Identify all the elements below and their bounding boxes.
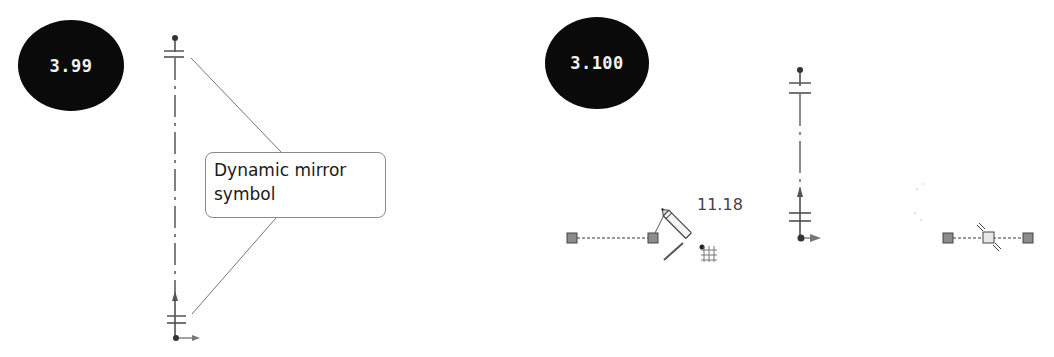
mirror-symbol-top-icon [164,51,184,57]
mirror-axis-left [164,35,200,341]
sketch-line-left [567,213,665,243]
mirror-axis-right [789,67,821,242]
ghost-artifacts [914,183,924,221]
endpoint-icon [943,233,953,243]
axis-origin-point-icon [798,235,805,242]
midpoint-icon [983,232,994,243]
direction-arrow-icon [797,186,803,197]
axis-origin-point-icon [173,335,179,341]
endpoint-icon [648,233,658,243]
sketch-line-right [943,223,1033,251]
diagram-canvas [0,0,1054,357]
callout-dynamic-mirror-symbol: Dynamic mirror symbol [205,152,386,218]
figure-number-badge-right: 3.100 [545,17,649,109]
axis-start-point-icon [797,67,803,73]
callout-line-2: symbol [214,182,377,206]
origin-arrow-icon [804,234,821,242]
endpoint-icon [1023,233,1033,243]
callout-line-1: Dynamic mirror [214,158,377,182]
dimension-value: 11.18 [697,195,743,214]
mirror-symbol-bottom-icon [167,316,186,323]
origin-arrow-icon [179,335,200,341]
axis-start-point-icon [172,35,178,41]
pencil-cursor-icon [659,206,692,239]
direction-arrow-icon [172,291,178,301]
pencil-trace [664,243,683,260]
endpoint-icon [567,233,577,243]
grid-snap-icon [700,245,718,263]
figure-number-label: 3.100 [570,53,624,73]
